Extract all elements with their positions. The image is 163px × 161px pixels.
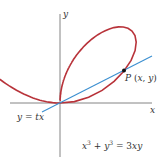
curve-equation-label: x3 + y3 = 3xy xyxy=(82,140,142,151)
y-axis-label: y xyxy=(63,10,68,19)
point-p xyxy=(122,69,126,73)
line-label: y = tx xyxy=(17,113,44,122)
x-axis-label: x xyxy=(150,106,155,115)
point-p-label: P (x, y) xyxy=(125,74,157,83)
folium-diagram: y x P (x, y) y = tx x3 + y3 = 3xy xyxy=(0,0,163,161)
line-y-equals-tx xyxy=(42,56,152,112)
